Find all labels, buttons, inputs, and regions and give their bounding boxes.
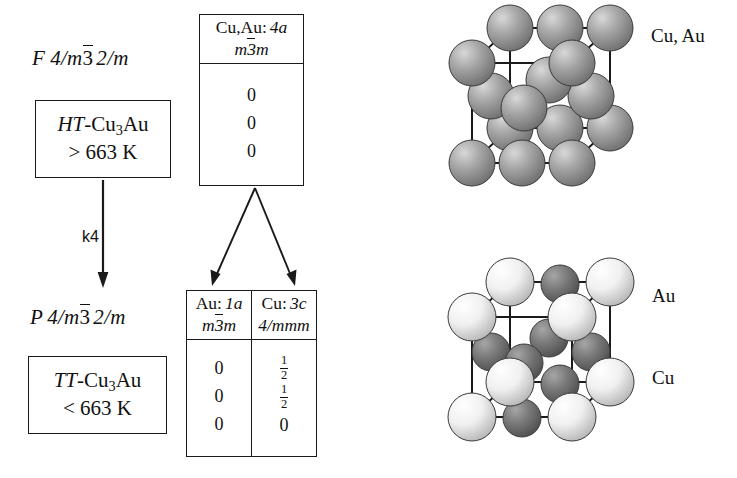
fraction-one-half: 1 2 bbox=[280, 383, 288, 411]
atom-sphere-au bbox=[586, 258, 634, 306]
subgroup-formula-a: -Cu bbox=[77, 368, 109, 392]
coordinate-y: 0 bbox=[192, 383, 246, 411]
subgroup-temperature: < 663 K bbox=[63, 396, 132, 422]
wyckoff-column-cu: Cu:3c 4/mmm 1 2 1 2 0 bbox=[251, 291, 316, 456]
wyckoff-site-symmetry-cuau: m3m bbox=[205, 39, 298, 60]
subgroup-lattice-letter: P bbox=[30, 305, 43, 329]
atom-sphere-mixed bbox=[549, 40, 595, 86]
subgroup-symbol-pre: 4/m bbox=[47, 305, 79, 329]
coordinate-x: 0 bbox=[192, 355, 246, 383]
wyckoff-header-au: Au:1a m3m bbox=[187, 291, 251, 340]
structure-label-cuau: Cu, Au bbox=[651, 25, 705, 47]
atom-sphere-mixed bbox=[449, 140, 495, 186]
parent-formula-b: Au bbox=[123, 112, 149, 136]
atom-sphere-au bbox=[548, 393, 596, 441]
wyckoff-splitting-arrows bbox=[196, 186, 314, 292]
structure-drawing-disordered bbox=[452, 8, 652, 213]
coordinate-z: 0 bbox=[192, 411, 246, 439]
atom-sphere-au bbox=[548, 293, 596, 341]
atom-sphere-mixed bbox=[487, 5, 533, 51]
site-sym-pre: 4/mmm bbox=[258, 315, 310, 335]
coordinate-x: 1 2 bbox=[257, 355, 311, 384]
subgroup-phase-prefix: TT bbox=[54, 368, 77, 392]
wyckoff-position-label: 1a bbox=[225, 293, 243, 313]
wyckoff-coords-au: 0 0 0 bbox=[187, 340, 251, 456]
parent-temperature: > 663 K bbox=[68, 140, 137, 166]
parent-space-group-symbol: F4/m32/m bbox=[32, 46, 129, 71]
atom-sphere-mixed bbox=[549, 140, 595, 186]
parent-phase-box: HT-Cu3Au > 663 K bbox=[35, 100, 171, 178]
parent-lattice-letter: F bbox=[32, 46, 45, 70]
coordinate-y: 0 bbox=[205, 110, 298, 138]
wyckoff-site-symmetry-cu: 4/mmm bbox=[257, 315, 311, 336]
parent-formula-sub: 3 bbox=[116, 122, 123, 138]
wyckoff-header-cu: Cu:3c 4/mmm bbox=[252, 291, 316, 340]
subgroup-wyckoff-table: Au:1a m3m 0 0 0 Cu:3c 4/mmm 1 2 bbox=[186, 290, 317, 457]
atom-sphere-au bbox=[486, 258, 534, 306]
wyckoff-column-cuau: Cu,Au:4a m3m 0 0 0 bbox=[200, 15, 303, 185]
wyckoff-atoms-cuau: Cu,Au:4a bbox=[205, 17, 298, 38]
parent-phase-name: HT-Cu3Au bbox=[57, 112, 148, 139]
site-sym-post: m bbox=[256, 39, 269, 59]
parent-symbol-post: 2/m bbox=[96, 46, 128, 70]
subgroup-phase-box: TT-Cu3Au < 663 K bbox=[28, 356, 167, 434]
fraction-numerator: 1 bbox=[280, 383, 288, 397]
wyckoff-atoms-label: Cu,Au: bbox=[216, 17, 267, 37]
structure-label-au: Au bbox=[652, 285, 675, 307]
fraction-numerator: 1 bbox=[280, 354, 288, 368]
wyckoff-header-cuau: Cu,Au:4a m3m bbox=[200, 15, 303, 64]
wyckoff-atoms-label: Cu: bbox=[262, 293, 287, 313]
atom-group-mixed bbox=[449, 5, 633, 186]
atom-sphere-au bbox=[448, 393, 496, 441]
site-sym-post: m bbox=[223, 315, 236, 335]
site-sym-bar: 3 bbox=[247, 39, 256, 60]
site-sym-pre: m bbox=[234, 39, 247, 59]
subgroup-space-group-symbol: P4/m32/m bbox=[30, 305, 126, 330]
wyckoff-coords-cu: 1 2 1 2 0 bbox=[252, 340, 316, 456]
structure-label-cu: Cu bbox=[652, 367, 674, 389]
subgroup-bar-axis: 3 bbox=[80, 305, 91, 330]
atom-sphere-mixed bbox=[449, 40, 495, 86]
subgroup-formula-b: Au bbox=[116, 368, 142, 392]
atom-sphere-au bbox=[448, 293, 496, 341]
coordinate-z: 0 bbox=[205, 138, 298, 166]
coordinate-y: 1 2 bbox=[257, 383, 311, 412]
wyckoff-atoms-cu: Cu:3c bbox=[257, 293, 311, 314]
atom-sphere-mixed bbox=[499, 140, 545, 186]
fraction-denominator: 2 bbox=[280, 397, 288, 412]
parent-symbol-pre: 4/m bbox=[50, 46, 82, 70]
coordinate-z: 0 bbox=[257, 412, 311, 440]
parent-formula-a: -Cu bbox=[84, 112, 116, 136]
wyckoff-coords-cuau: 0 0 0 bbox=[200, 64, 303, 185]
atom-sphere-au bbox=[586, 358, 634, 406]
wyckoff-position-label: 4a bbox=[270, 17, 288, 37]
wyckoff-atoms-label: Au: bbox=[196, 293, 222, 313]
parent-bar-axis: 3 bbox=[83, 46, 94, 71]
wyckoff-position-label: 3c bbox=[290, 293, 307, 313]
atom-sphere-mixed bbox=[501, 85, 547, 131]
atom-sphere-au bbox=[486, 358, 534, 406]
subgroup-formula-sub: 3 bbox=[109, 378, 116, 394]
transition-index-label: k4 bbox=[82, 228, 99, 246]
site-sym-pre: m bbox=[202, 315, 215, 335]
atom-sphere-mixed bbox=[587, 5, 633, 51]
subgroup-phase-name: TT-Cu3Au bbox=[54, 368, 142, 395]
site-sym-bar: 3 bbox=[215, 315, 224, 336]
parent-phase-prefix: HT bbox=[57, 112, 84, 136]
structure-drawing-ordered bbox=[452, 262, 652, 467]
wyckoff-column-au: Au:1a m3m 0 0 0 bbox=[187, 291, 251, 456]
subgroup-symbol-post: 2/m bbox=[93, 305, 125, 329]
fraction-denominator: 2 bbox=[280, 368, 288, 383]
fraction-one-half: 1 2 bbox=[280, 354, 288, 382]
wyckoff-site-symmetry-au: m3m bbox=[192, 315, 246, 336]
wyckoff-atoms-au: Au:1a bbox=[192, 293, 246, 314]
coordinate-x: 0 bbox=[205, 82, 298, 110]
parent-wyckoff-table: Cu,Au:4a m3m 0 0 0 bbox=[199, 14, 304, 186]
